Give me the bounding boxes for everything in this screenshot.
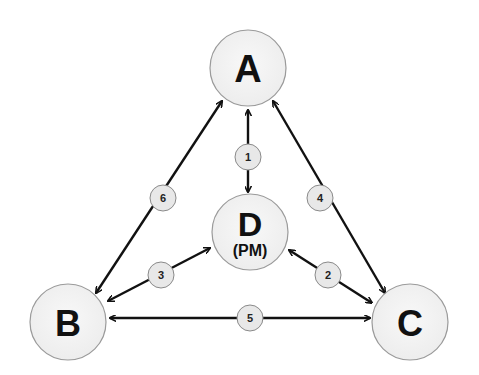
node-d-label: D [238,205,263,243]
edge-badge-4: 4 [307,185,333,211]
edge-badge-6-label: 6 [160,192,166,204]
edge-badge-1-label: 1 [245,151,251,163]
edge-badge-6: 6 [150,185,176,211]
node-b: B [30,284,106,360]
edge-badge-3-label: 3 [158,269,164,281]
edge-badge-5: 5 [237,305,263,331]
node-b-label: B [55,303,81,344]
edge-badge-1: 1 [235,144,261,170]
node-d-sublabel: (PM) [233,242,268,259]
edge-badge-2-label: 2 [325,269,331,281]
node-a: A [210,30,286,106]
node-a-label: A [234,48,261,90]
edge-badge-3: 3 [148,262,174,288]
edge-badge-2: 2 [315,262,341,288]
edge-badge-5-label: 5 [247,312,253,324]
edge-badge-4-label: 4 [317,192,324,204]
network-diagram: A B C D (PM) 1 2 3 4 5 6 [0,0,479,375]
node-c-label: C [397,303,423,344]
node-c: C [372,284,448,360]
node-d: D (PM) [212,194,288,270]
